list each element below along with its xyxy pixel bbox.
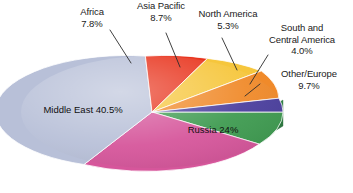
label-africa-value: 7.8% [62, 18, 122, 30]
label-other-europe-value: 9.7% [267, 80, 351, 92]
label-africa: Africa 7.8% [62, 6, 122, 29]
label-africa-name: Africa [80, 6, 104, 17]
label-other-europe: Other/Europe 9.7% [267, 68, 351, 91]
label-middle-east-value: 40.5% [96, 104, 123, 115]
label-other-europe-name: Other/Europe [281, 68, 337, 79]
pie-chart-figure: Africa 7.8% Asia Pacific 8.7% North Amer… [0, 0, 353, 193]
label-middle-east: Middle East 40.5% [40, 104, 126, 116]
label-south-central-line2: Central America [253, 34, 351, 46]
label-middle-east-name: Middle East [43, 104, 93, 115]
label-russia: Russia 24% [180, 124, 246, 136]
label-russia-name: Russia [188, 124, 217, 135]
label-south-central-value: 4.0% [253, 45, 351, 57]
label-south-central-line1: South and [281, 22, 323, 33]
label-russia-value: 24% [219, 124, 238, 135]
label-asia-pacific-name: Asia Pacific [137, 0, 185, 11]
label-north-america-name: North America [199, 8, 258, 19]
label-south-central-america: South and Central America 4.0% [253, 22, 351, 57]
